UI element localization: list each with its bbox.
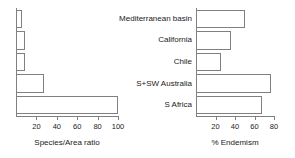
axis-tick-mark	[57, 116, 58, 120]
axis-tick-mark	[216, 116, 217, 120]
bar-row	[196, 31, 274, 50]
axis-tick-mark	[274, 116, 275, 120]
axis-tick-mark	[36, 116, 37, 120]
category-label: S+SW Australia	[110, 79, 192, 89]
right-axis-title: % Endemism	[190, 138, 280, 148]
axis-tick-mark	[235, 116, 236, 120]
right-y-axis-line	[196, 8, 197, 116]
bar-row	[16, 31, 118, 50]
endemism-plot-area: 20406080	[196, 8, 274, 116]
bar	[16, 53, 25, 72]
category-label: S Africa	[110, 100, 192, 110]
bar	[16, 74, 44, 93]
left-axis-title: Species/Area ratio	[16, 138, 118, 148]
left-x-axis-line	[16, 116, 118, 117]
bar-row	[196, 74, 274, 93]
bar	[196, 10, 245, 29]
axis-tick-label: 80	[261, 122, 287, 131]
right-bars-group	[196, 8, 274, 116]
axis-tick-mark	[98, 116, 99, 120]
bar-row	[196, 53, 274, 72]
bar-row	[16, 74, 118, 93]
bar	[16, 31, 25, 50]
axis-tick-label: 100	[105, 122, 131, 131]
bar	[196, 74, 271, 93]
left-y-axis-line	[16, 8, 17, 116]
bar	[196, 31, 231, 50]
right-chart-panel: 20406080 % Endemism	[196, 0, 295, 158]
axis-tick-mark	[255, 116, 256, 120]
left-bars-group	[16, 8, 118, 116]
category-label: Chile	[110, 57, 192, 67]
axis-tick-mark	[118, 116, 119, 120]
category-label: California	[110, 35, 192, 45]
bar	[196, 96, 262, 115]
bar	[16, 96, 118, 115]
category-label: Mediterranean basin	[110, 14, 192, 24]
two-panel-bar-chart-figure: 20406080100 Species/Area ratio Mediterra…	[0, 0, 295, 158]
species-area-plot-area: 20406080100	[16, 8, 118, 116]
bar-row	[16, 53, 118, 72]
bar-row	[16, 10, 118, 29]
bar	[196, 53, 221, 72]
bar-row	[16, 96, 118, 115]
bar-row	[196, 96, 274, 115]
axis-tick-mark	[77, 116, 78, 120]
bar-row	[196, 10, 274, 29]
